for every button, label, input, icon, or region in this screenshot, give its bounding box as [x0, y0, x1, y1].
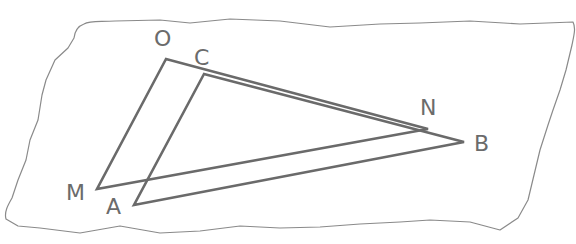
label-n: N — [420, 97, 436, 119]
label-c: C — [194, 47, 209, 69]
label-o: O — [154, 28, 171, 50]
paper-outline — [5, 19, 574, 233]
diagram-canvas — [0, 0, 576, 244]
label-a: A — [106, 196, 121, 218]
label-m: M — [66, 182, 85, 204]
label-b: B — [474, 133, 489, 155]
